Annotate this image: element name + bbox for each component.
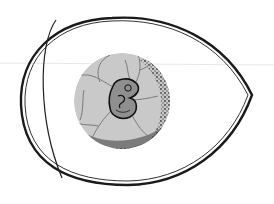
- egg-illustration: [0, 0, 274, 204]
- air-cell-membrane: [43, 20, 62, 178]
